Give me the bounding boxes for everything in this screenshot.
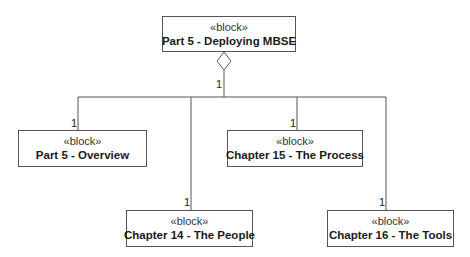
block-name: Chapter 16 - The Tools [329, 228, 452, 242]
multiplicity-process: 1 [290, 117, 296, 129]
aggregation-diamond-icon [217, 52, 231, 70]
block-name: Part 5 - Deploying MBSE [162, 34, 296, 48]
block-name: Part 5 - Overview [36, 148, 129, 162]
block-part5-overview[interactable]: «block» Part 5 - Overview [18, 130, 147, 167]
block-name: Chapter 14 - The People [124, 228, 255, 242]
block-name: Chapter 15 - The Process [226, 148, 364, 162]
block-chapter16-tools[interactable]: «block» Chapter 16 - The Tools [327, 210, 454, 247]
multiplicity-root: 1 [216, 78, 222, 90]
multiplicity-people: 1 [184, 196, 190, 208]
stereotype-label: «block» [276, 135, 314, 148]
block-chapter15-process[interactable]: «block» Chapter 15 - The Process [227, 130, 363, 167]
block-chapter14-people[interactable]: «block» Chapter 14 - The People [126, 210, 253, 247]
stereotype-label: «block» [171, 215, 209, 228]
stereotype-label: «block» [64, 135, 102, 148]
stereotype-label: «block» [210, 21, 248, 34]
stereotype-label: «block» [372, 215, 410, 228]
multiplicity-overview: 1 [71, 117, 77, 129]
multiplicity-tools: 1 [379, 196, 385, 208]
block-deploying-mbse[interactable]: «block» Part 5 - Deploying MBSE [162, 16, 296, 52]
